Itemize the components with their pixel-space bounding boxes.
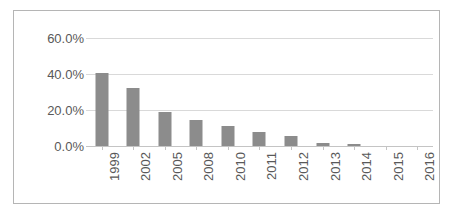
x-axis-tick-mark xyxy=(323,147,324,150)
bar-slot xyxy=(401,38,433,146)
x-axis-tick: 1999 xyxy=(86,147,118,203)
x-axis-tick: 2012 xyxy=(275,147,307,203)
bar-slot xyxy=(149,38,181,146)
x-axis-tick: 2015 xyxy=(370,147,402,203)
x-axis-tick: 2013 xyxy=(307,147,339,203)
x-axis-tick: 2016 xyxy=(401,147,433,203)
x-axis-tick: 2010 xyxy=(212,147,244,203)
x-axis-tick-mark xyxy=(354,147,355,150)
bar xyxy=(253,132,266,146)
x-axis-tick-label: 2016 xyxy=(423,152,436,181)
x-axis-tick-mark xyxy=(386,147,387,150)
x-axis-tick-mark xyxy=(291,147,292,150)
bar xyxy=(285,136,298,146)
x-axis-tick-mark xyxy=(102,147,103,150)
x-axis-tick-mark xyxy=(196,147,197,150)
y-axis-tick-label: 40.0% xyxy=(28,68,84,81)
x-axis-tick: 2008 xyxy=(181,147,213,203)
bar xyxy=(190,120,203,146)
bar xyxy=(127,88,140,146)
bar-slot xyxy=(275,38,307,146)
bar-slot xyxy=(338,38,370,146)
bar xyxy=(316,143,329,146)
x-axis-tick: 2002 xyxy=(118,147,150,203)
bar-slot xyxy=(86,38,118,146)
bar-slot xyxy=(181,38,213,146)
bar-series xyxy=(86,38,433,146)
x-axis-tick-mark xyxy=(133,147,134,150)
bar-slot xyxy=(118,38,150,146)
x-axis-tick-mark xyxy=(259,147,260,150)
x-axis-tick: 2014 xyxy=(338,147,370,203)
bar xyxy=(95,73,108,146)
x-axis-tick-mark xyxy=(417,147,418,150)
x-axis-tick-mark xyxy=(165,147,166,150)
chart-frame: 60.0%40.0%20.0%0.0% 19992002200520082010… xyxy=(13,10,440,204)
x-axis-tick-mark xyxy=(228,147,229,150)
y-axis-tick-label: 60.0% xyxy=(28,32,84,45)
x-axis: 1999200220052008201020112012201320142015… xyxy=(86,147,433,203)
bar xyxy=(158,112,171,146)
y-axis-tick-label: 20.0% xyxy=(28,104,84,117)
bar-slot xyxy=(370,38,402,146)
y-axis: 60.0%40.0%20.0%0.0% xyxy=(28,38,84,146)
x-axis-tick: 2011 xyxy=(244,147,276,203)
y-axis-tick-label: 0.0% xyxy=(28,140,84,153)
bar-slot xyxy=(212,38,244,146)
bar-slot xyxy=(307,38,339,146)
bar-slot xyxy=(244,38,276,146)
plot-area xyxy=(86,38,433,146)
x-axis-tick: 2005 xyxy=(149,147,181,203)
bar xyxy=(221,126,234,146)
bar xyxy=(348,144,361,146)
